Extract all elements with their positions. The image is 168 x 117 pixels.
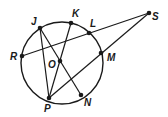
- label-l: L: [90, 18, 96, 29]
- point-m: [99, 51, 104, 56]
- point-n: [79, 93, 84, 98]
- label-n: N: [84, 97, 92, 108]
- circle-geometry-diagram: J K L S R O M P N: [0, 0, 168, 117]
- point-k: [69, 21, 74, 26]
- point-l: [87, 31, 92, 36]
- label-p: P: [44, 103, 51, 114]
- point-o: [58, 59, 63, 64]
- point-p: [47, 96, 52, 101]
- point-j: [38, 26, 43, 31]
- label-o: O: [48, 59, 56, 70]
- point-s: [147, 11, 152, 16]
- label-m: M: [107, 52, 116, 63]
- label-j: J: [31, 16, 37, 27]
- point-r: [20, 54, 25, 59]
- secant-ps: [49, 13, 149, 98]
- label-r: R: [10, 51, 18, 62]
- label-k: K: [72, 8, 80, 19]
- label-s: S: [152, 11, 159, 22]
